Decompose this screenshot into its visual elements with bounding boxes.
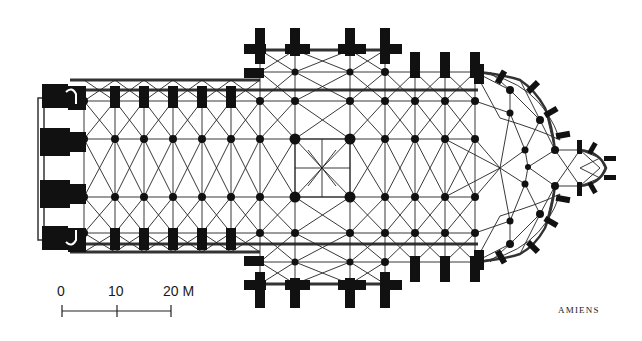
piers-and-buttresses <box>110 28 616 308</box>
scale-label-0: 0 <box>57 283 65 299</box>
west-facade <box>38 84 86 252</box>
scale-label-20m: 20 M <box>163 283 194 299</box>
scale-bar <box>62 305 171 317</box>
plan-caption: AMIENS <box>558 305 600 315</box>
cathedral-floor-plan <box>0 0 642 341</box>
scale-label-10: 10 <box>108 283 124 299</box>
pier-columns <box>80 68 559 266</box>
